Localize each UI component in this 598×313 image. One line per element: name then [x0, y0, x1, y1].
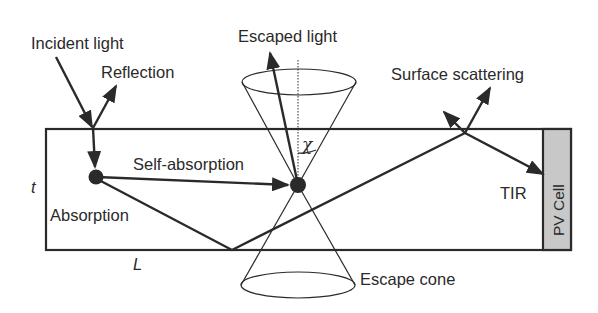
- label-reflection: Reflection: [101, 63, 174, 81]
- refracted-ray-arrow: [93, 128, 95, 167]
- label-pv-cell: PV Cell: [550, 184, 567, 236]
- emission-dye-dot: [290, 177, 306, 193]
- label-escape-cone: Escape cone: [360, 270, 455, 288]
- label-angle-chi: χ: [301, 134, 314, 154]
- absorption-dye-dot: [89, 170, 104, 185]
- upper-escape-cone: [242, 69, 356, 185]
- label-incident-light: Incident light: [31, 34, 124, 52]
- label-escaped-light: Escaped light: [238, 27, 337, 45]
- escaped-light-arrow: [270, 53, 298, 185]
- reflection-arrow: [93, 86, 116, 128]
- self-absorption-arrow: [97, 177, 288, 185]
- lower-escape-cone: [241, 185, 355, 298]
- lsc-diagram: Incident light Reflection Escaped light …: [0, 0, 598, 313]
- label-tir: TIR: [500, 184, 527, 202]
- tir-arrow: [465, 133, 543, 174]
- label-absorption: Absorption: [50, 206, 129, 224]
- label-thickness: t: [31, 178, 37, 196]
- label-surface-scattering: Surface scattering: [391, 65, 524, 83]
- incident-light-arrow: [56, 57, 92, 127]
- label-length: L: [133, 255, 142, 273]
- scatter-arrow-2: [465, 88, 490, 133]
- trapped-ray-path: [97, 133, 465, 250]
- label-self-absorption: Self-absorption: [133, 155, 244, 173]
